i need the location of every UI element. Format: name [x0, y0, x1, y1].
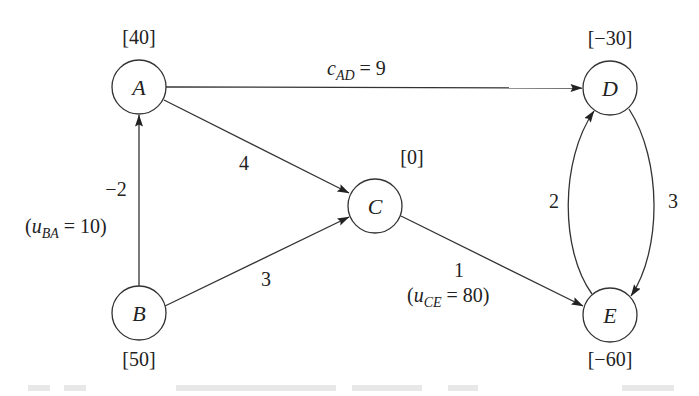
edge-D-E: [629, 109, 654, 296]
node-C-label: C: [368, 194, 383, 219]
edge-A-C-cost: 4: [239, 152, 249, 174]
edge-D-E-cost: 3: [668, 190, 678, 212]
edge-C-E: [401, 216, 583, 306]
edge-B-C: [165, 217, 349, 306]
edge-B-A-capacity: (uBA = 10): [25, 215, 107, 241]
node-E-supply: [−60]: [588, 348, 633, 370]
node-B: B [50]: [112, 286, 166, 370]
edge-B-C-cost: 3: [261, 268, 271, 290]
node-D: D [−30]: [583, 27, 637, 115]
edge-E-D: [568, 111, 594, 294]
edge-A-D: [166, 87, 582, 88]
node-D-label: D: [601, 76, 618, 101]
network-flow-diagram: A [40] B [50] C [0] D [−30] E [−60] cAD …: [0, 0, 699, 396]
edge-C-E-capacity: (uCE = 80): [407, 284, 490, 310]
node-E-label: E: [602, 303, 617, 328]
cropped-caption-remnant: [0, 380, 699, 396]
edge-C-E-cost: 1: [454, 259, 464, 281]
node-C-supply: [0]: [400, 146, 423, 168]
edge-A-D-label: cAD = 9: [327, 57, 386, 83]
node-B-supply: [50]: [122, 348, 155, 370]
node-A-label: A: [130, 75, 146, 100]
node-A-supply: [40]: [122, 26, 155, 48]
node-C: C [0]: [348, 146, 424, 233]
node-D-supply: [−30]: [588, 27, 633, 49]
node-A: A [40]: [112, 26, 166, 114]
node-E: E [−60]: [583, 288, 637, 370]
edge-B-A-cost: −2: [105, 178, 126, 200]
edge-A-C: [164, 100, 349, 193]
edge-E-D-cost: 2: [549, 190, 559, 212]
node-B-label: B: [132, 301, 145, 326]
